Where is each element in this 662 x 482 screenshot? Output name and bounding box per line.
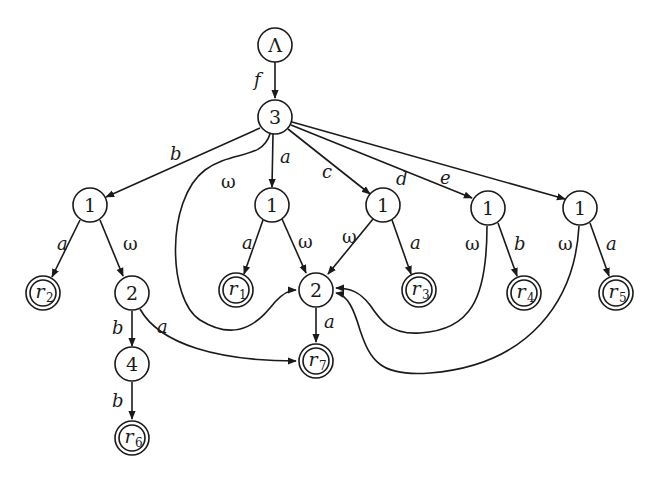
- svg-text:1: 1: [377, 194, 389, 216]
- node-1a: 1: [73, 188, 107, 222]
- edge-3-to-1e: [292, 122, 565, 199]
- automaton-diagram: f b ω a c d e a ω a ω ω a ω b ω a b a a …: [0, 0, 662, 482]
- label-1a-a: a: [57, 233, 68, 254]
- label-d-top: d: [396, 168, 408, 189]
- svg-text:3: 3: [422, 288, 430, 302]
- edge-1c-to-r3: [392, 220, 411, 274]
- node-1c: 1: [366, 188, 400, 222]
- label-1a-omega: ω: [123, 233, 138, 254]
- label-e-top: e: [440, 167, 451, 188]
- node-1d: 1: [471, 191, 505, 225]
- node-2b: 2: [299, 273, 333, 307]
- label-a-top: a: [280, 146, 291, 167]
- node-root: Λ: [258, 28, 292, 62]
- svg-text:5: 5: [619, 291, 627, 305]
- svg-text:2: 2: [126, 282, 138, 304]
- final-state-r4: r 4: [507, 276, 541, 310]
- label-1c-omega: ω: [342, 226, 357, 247]
- edge-1a-to-2a: [100, 220, 123, 276]
- label-f: f: [252, 69, 264, 90]
- final-state-r3: r 3: [402, 273, 436, 307]
- label-1b-a: a: [242, 232, 253, 253]
- svg-text:3: 3: [269, 106, 281, 128]
- final-state-r7: r 7: [299, 344, 333, 378]
- node-4: 4: [115, 347, 149, 381]
- svg-text:1: 1: [482, 197, 494, 219]
- label-1d-b: b: [514, 233, 526, 254]
- edge-3-to-1a: [106, 128, 260, 197]
- label-1b-omega: ω: [298, 231, 313, 252]
- svg-text:1: 1: [84, 194, 96, 216]
- svg-text:6: 6: [135, 436, 143, 450]
- svg-text:1: 1: [266, 194, 278, 216]
- node-2a: 2: [115, 276, 149, 310]
- label-1c-a: a: [410, 232, 421, 253]
- svg-text:4: 4: [527, 291, 535, 305]
- final-state-r5: r 5: [599, 276, 633, 310]
- edge-3-to-1b: [272, 134, 273, 187]
- svg-text:1: 1: [574, 197, 586, 219]
- svg-text:Λ: Λ: [267, 34, 282, 56]
- node-1b: 1: [255, 188, 289, 222]
- final-state-r2: r 2: [26, 276, 60, 310]
- svg-text:2: 2: [46, 291, 54, 305]
- svg-text:1: 1: [239, 288, 247, 302]
- svg-text:2: 2: [310, 279, 322, 301]
- final-state-r6: r 6: [115, 421, 149, 455]
- node-1e: 1: [563, 191, 597, 225]
- label-1e-omega: ω: [558, 233, 573, 254]
- label-1d-omega: ω: [465, 233, 480, 254]
- svg-text:7: 7: [319, 359, 327, 373]
- label-4-b: b: [112, 390, 124, 411]
- label-2a-a: a: [157, 316, 168, 337]
- edge-1e-to-2b-omega: [336, 226, 579, 374]
- final-state-r1: r 1: [219, 273, 253, 307]
- label-2b-a: a: [324, 311, 335, 332]
- node-3: 3: [258, 100, 292, 134]
- label-c-top: c: [322, 161, 332, 182]
- label-b-top: b: [170, 143, 182, 164]
- label-2a-b: b: [112, 317, 124, 338]
- label-1e-a: a: [606, 233, 617, 254]
- svg-text:4: 4: [126, 353, 138, 375]
- label-omega-top: ω: [221, 171, 236, 192]
